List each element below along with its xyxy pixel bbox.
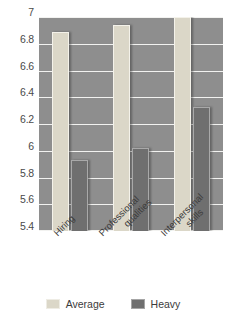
bar-average (52, 32, 69, 231)
y-axis-tick: 6.8 (20, 34, 34, 45)
legend-label: Average (66, 298, 105, 310)
legend-item-average: Average (46, 298, 105, 310)
legend-swatch-icon (131, 299, 145, 309)
y-axis-tick: 5.4 (20, 221, 34, 232)
y-axis-tick: 7 (28, 7, 34, 18)
x-axis-labels: Hiring Professional qualities Interperso… (39, 231, 223, 293)
legend-swatch-icon (46, 299, 60, 309)
bar-group (39, 17, 100, 231)
y-axis: 7 6.8 6.6 6.4 6.2 6 5.8 5.6 5.4 (0, 12, 37, 236)
bar-chart: 7 6.8 6.6 6.4 6.2 6 5.8 5.6 5.4 (0, 0, 226, 326)
y-axis-tick: 6.4 (20, 87, 34, 98)
legend-label: Heavy (151, 298, 181, 310)
y-axis-tick: 6 (28, 141, 34, 152)
y-axis-tick: 6.2 (20, 114, 34, 125)
legend: Average Heavy (0, 298, 226, 310)
y-axis-tick: 5.8 (20, 167, 34, 178)
legend-item-heavy: Heavy (131, 298, 181, 310)
y-axis-tick: 5.6 (20, 194, 34, 205)
y-axis-tick: 6.6 (20, 60, 34, 71)
